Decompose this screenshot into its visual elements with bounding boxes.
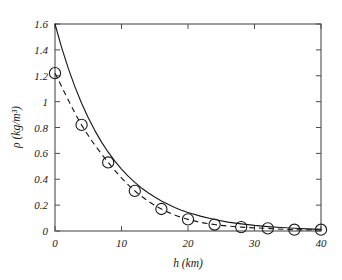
y-tick-label: 0.8: [34, 122, 48, 134]
figure-container: 010203040 00.20.40.60.811.21.41.6 h (km)…: [0, 0, 342, 280]
y-tick-label: 0: [43, 225, 49, 237]
x-tick-label: 40: [316, 237, 328, 249]
x-tick-label: 20: [183, 237, 195, 249]
x-tick-label: 10: [116, 237, 128, 249]
x-tick-label: 0: [52, 237, 58, 249]
y-tick-label: 0.2: [34, 199, 48, 211]
density-vs-altitude-chart: 010203040 00.20.40.60.811.21.41.6 h (km)…: [0, 0, 342, 280]
x-axis-title: h (km): [173, 257, 203, 270]
y-axis-tick-labels: 00.20.40.60.811.21.41.6: [34, 18, 48, 237]
x-tick-label: 30: [248, 237, 261, 249]
y-tick-label: 1.4: [34, 44, 48, 56]
y-tick-label: 0.4: [34, 173, 48, 185]
y-tick-label: 1.6: [34, 18, 48, 30]
y-tick-label: 1.2: [34, 70, 48, 82]
y-axis-title: ρ (kg/m³): [10, 106, 23, 149]
y-tick-label: 0.6: [34, 147, 48, 159]
y-tick-label: 1: [43, 96, 49, 108]
